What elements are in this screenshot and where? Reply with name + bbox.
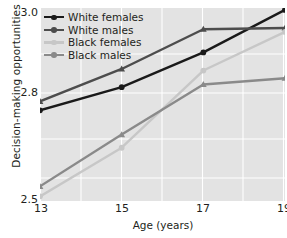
data-point [119, 145, 125, 151]
legend-swatch-icon [44, 24, 64, 36]
y-tick-label: 2.8 [4, 86, 38, 99]
legend-item[interactable]: Black males [44, 49, 164, 62]
data-point [200, 68, 206, 74]
chart-figure: Decision-making opportunities 3.0 2.8 2.… [0, 0, 287, 238]
x-tick-label: 15 [107, 202, 137, 215]
data-point [40, 107, 43, 113]
y-tick-label: 3.0 [4, 6, 38, 19]
x-axis-label: Age (years) [40, 219, 286, 231]
legend-label: Black females [68, 36, 141, 49]
legend-label: Black males [68, 49, 131, 62]
legend-swatch-icon [44, 36, 64, 48]
x-tick-label: 17 [188, 202, 218, 215]
legend-item[interactable]: White males [44, 24, 164, 37]
legend-label: White males [68, 24, 133, 37]
data-point [200, 49, 206, 55]
x-tick-label: 13 [26, 202, 56, 215]
legend-item[interactable]: Black females [44, 36, 164, 49]
x-tick-label: 19 [269, 202, 287, 215]
legend-swatch-icon [44, 49, 64, 61]
legend-swatch-icon [44, 11, 64, 23]
legend: White females White males Black females … [44, 11, 164, 61]
legend-item[interactable]: White females [44, 11, 164, 24]
data-point [119, 84, 125, 90]
legend-label: White females [68, 11, 144, 24]
